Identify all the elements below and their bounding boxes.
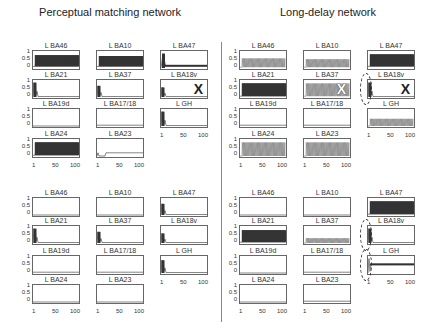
signal-trace xyxy=(368,198,414,216)
x-tick-label: 1 xyxy=(367,279,370,285)
subplot-l-ba24: L BA24 xyxy=(239,284,287,304)
y-tick-label: 0.5 xyxy=(223,84,237,90)
subplot-title: L BA17/18 xyxy=(97,247,143,255)
signal-trace xyxy=(33,80,79,98)
subplot-l-ba18v: L BA18v xyxy=(160,225,208,245)
x-tick-label: 1 xyxy=(32,308,35,314)
subplot-title: L BA46 xyxy=(240,189,286,197)
signal-trace xyxy=(368,256,414,274)
signal-trace xyxy=(240,139,286,157)
subplot-title: L BA23 xyxy=(304,130,350,138)
subplot-l-ba23: L BA23 xyxy=(96,138,144,158)
subplot-l-gh: L GH xyxy=(160,255,208,275)
subplot-title: L BA46 xyxy=(33,189,79,197)
y-tick-label: 1 xyxy=(16,253,30,259)
y-tick-label: 1 xyxy=(223,223,237,229)
x-tick-label: 1 xyxy=(239,162,242,168)
subplot-l-ba18v: L BA18vX xyxy=(367,79,415,99)
subplot-title: L BA24 xyxy=(33,276,79,284)
subplot-l-gh: L GH xyxy=(160,108,208,128)
subplot-l-ba47: L BA47 xyxy=(160,197,208,217)
x-tick-label: 1 xyxy=(303,308,306,314)
y-tick-label: 0.5 xyxy=(16,143,30,149)
subplot-l-ba21: L BA21 xyxy=(239,225,287,245)
subplot-title: L BA10 xyxy=(97,42,143,50)
y-tick-label: 0.5 xyxy=(223,143,237,149)
subplot-l-ba24: L BA24 xyxy=(32,138,80,158)
signal-trace xyxy=(240,226,286,244)
signal-trace xyxy=(33,198,79,216)
x-tick-label: 1 xyxy=(32,162,35,168)
y-tick-label: 1 xyxy=(16,223,30,229)
signal-trace xyxy=(161,226,207,244)
y-tick-label: 1 xyxy=(223,282,237,288)
signal-trace xyxy=(33,226,79,244)
subplot-title: L BA47 xyxy=(161,42,207,50)
subplot-title: L BA47 xyxy=(368,42,414,50)
y-tick-label: 0 xyxy=(223,91,237,97)
x-tick-label: 100 xyxy=(70,162,80,168)
y-tick-label: 1 xyxy=(16,282,30,288)
subplot-title: L BA18v xyxy=(161,71,207,79)
subplot-title: L BA10 xyxy=(304,42,350,50)
subplot-l-ba46: L BA46 xyxy=(32,50,80,70)
y-tick-label: 0 xyxy=(16,296,30,302)
subplot-l-ba19d: L BA19d xyxy=(239,108,287,128)
y-tick-label: 0 xyxy=(223,209,237,215)
signal-trace xyxy=(304,226,350,244)
x-tick-label: 50 xyxy=(259,308,266,314)
subplot-l-ba19d: L BA19d xyxy=(239,255,287,275)
signal-trace xyxy=(240,51,286,69)
subplot-title: L BA23 xyxy=(97,276,143,284)
signal-trace xyxy=(240,109,286,127)
subplot-title: L GH xyxy=(368,247,414,255)
y-tick-label: 0 xyxy=(16,62,30,68)
y-tick-label: 1 xyxy=(223,253,237,259)
subplot-title: L BA37 xyxy=(304,71,350,79)
subplot-title: L BA17/18 xyxy=(304,100,350,108)
y-tick-label: 0.5 xyxy=(16,55,30,61)
subplot-title: L BA24 xyxy=(33,130,79,138)
subplot-title: L BA21 xyxy=(33,217,79,225)
subplot-l-ba17-18: L BA17/18 xyxy=(303,108,351,128)
subplot-l-ba21: L BA21 xyxy=(32,79,80,99)
subplot-title: L BA21 xyxy=(33,71,79,79)
subplot-l-ba46: L BA46 xyxy=(32,197,80,217)
subplot-l-ba47: L BA47 xyxy=(367,50,415,70)
y-tick-label: 1 xyxy=(16,48,30,54)
y-tick-label: 1 xyxy=(223,106,237,112)
subplot-l-ba46: L BA46 xyxy=(239,197,287,217)
signal-trace xyxy=(161,51,207,69)
subplot-title: L BA37 xyxy=(304,217,350,225)
x-tick-label: 100 xyxy=(134,162,144,168)
y-tick-label: 0 xyxy=(16,267,30,273)
x-tick-label: 50 xyxy=(52,162,59,168)
x-tick-label: 1 xyxy=(160,279,163,285)
subplot-title: L BA17/18 xyxy=(97,100,143,108)
subplot-l-gh: L GH xyxy=(367,255,415,275)
subplot-l-gh: L GH xyxy=(367,108,415,128)
signal-trace xyxy=(161,109,207,127)
subplot-title: L BA17/18 xyxy=(304,247,350,255)
subplot-title: L BA19d xyxy=(240,247,286,255)
y-tick-label: 1 xyxy=(223,77,237,83)
subplot-l-ba21: L BA21 xyxy=(32,225,80,245)
subplot-title: L BA24 xyxy=(240,276,286,284)
subplot-l-ba23: L BA23 xyxy=(96,284,144,304)
subplot-title: L BA18v xyxy=(368,71,414,79)
subplot-l-ba37: L BA37X xyxy=(303,79,351,99)
y-tick-label: 1 xyxy=(223,48,237,54)
y-tick-label: 1 xyxy=(16,77,30,83)
x-tick-label: 100 xyxy=(277,308,287,314)
subplot-l-ba46: L BA46 xyxy=(239,50,287,70)
signal-trace xyxy=(240,198,286,216)
subplot-l-ba18v: L BA18vX xyxy=(160,79,208,99)
signal-trace xyxy=(161,198,207,216)
subplot-l-ba10: L BA10 xyxy=(303,50,351,70)
y-tick-label: 0.5 xyxy=(223,202,237,208)
subplot-title: L BA18v xyxy=(161,217,207,225)
y-tick-label: 0.5 xyxy=(16,113,30,119)
y-tick-label: 1 xyxy=(16,106,30,112)
subplot-l-ba24: L BA24 xyxy=(32,284,80,304)
subplot-title: L BA21 xyxy=(240,71,286,79)
